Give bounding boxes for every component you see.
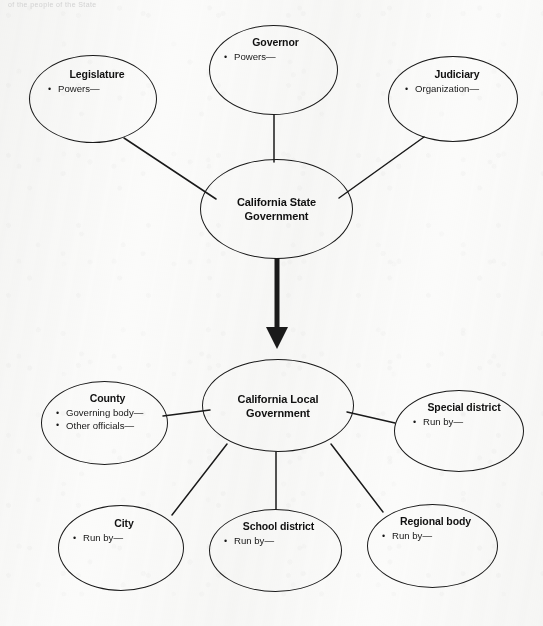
node-school-district-content: School district Run by— xyxy=(210,520,341,548)
node-regional-body-title: Regional body xyxy=(382,515,489,527)
node-legislature-content: Legislature Powers— xyxy=(30,68,156,96)
bullet-item: Run by— xyxy=(224,535,333,548)
node-california-local-government[interactable]: California Local Government xyxy=(202,359,354,452)
node-regional-body-bullets: Run by— xyxy=(382,530,489,543)
node-governor-bullets: Powers— xyxy=(224,51,327,64)
bullet-item: Governing body— xyxy=(56,407,159,420)
node-county-title: County xyxy=(56,392,159,404)
node-governor-content: Governor Powers— xyxy=(210,36,337,64)
node-special-district[interactable]: Special district Run by— xyxy=(394,390,524,472)
arrow-head xyxy=(266,327,288,349)
bullet-item: Run by— xyxy=(382,530,489,543)
node-city-content: City Run by— xyxy=(59,517,183,545)
node-state-content: California State Government xyxy=(201,160,352,258)
bullet-item: Organization— xyxy=(405,83,509,96)
bullet-item: Run by— xyxy=(413,416,515,429)
node-city[interactable]: City Run by— xyxy=(58,505,184,591)
node-school-district-title: School district xyxy=(224,520,333,532)
bullet-item: Powers— xyxy=(48,83,146,96)
node-school-district[interactable]: School district Run by— xyxy=(209,509,342,592)
node-legislature-title: Legislature xyxy=(48,68,146,80)
node-local-title: California Local Government xyxy=(223,392,333,420)
node-judiciary-title: Judiciary xyxy=(405,68,509,80)
node-county[interactable]: County Governing body— Other officials— xyxy=(41,381,168,465)
node-judiciary[interactable]: Judiciary Organization— xyxy=(388,56,518,142)
node-legislature[interactable]: Legislature Powers— xyxy=(29,55,157,143)
node-special-district-title: Special district xyxy=(413,401,515,413)
node-county-content: County Governing body— Other officials— xyxy=(42,392,167,432)
node-city-title: City xyxy=(73,517,175,529)
node-state-title: California State Government xyxy=(222,195,332,223)
node-school-district-bullets: Run by— xyxy=(224,535,333,548)
node-special-district-bullets: Run by— xyxy=(413,416,515,429)
node-governor-title: Governor xyxy=(224,36,327,48)
node-city-bullets: Run by— xyxy=(73,532,175,545)
bullet-item: Run by— xyxy=(73,532,175,545)
node-judiciary-content: Judiciary Organization— xyxy=(389,68,517,96)
node-local-content: California Local Government xyxy=(203,360,353,451)
node-regional-body[interactable]: Regional body Run by— xyxy=(367,504,498,588)
diagram-page: of the people of the State Le xyxy=(0,0,543,626)
node-regional-body-content: Regional body Run by— xyxy=(368,515,497,543)
node-judiciary-bullets: Organization— xyxy=(405,83,509,96)
node-special-district-content: Special district Run by— xyxy=(395,401,523,429)
node-county-bullets: Governing body— Other officials— xyxy=(56,407,159,432)
bullet-item: Powers— xyxy=(224,51,327,64)
node-governor[interactable]: Governor Powers— xyxy=(209,25,338,115)
bullet-item: Other officials— xyxy=(56,420,159,433)
node-california-state-government[interactable]: California State Government xyxy=(200,159,353,259)
node-legislature-bullets: Powers— xyxy=(48,83,146,96)
